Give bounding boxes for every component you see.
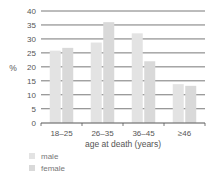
bar-female-1	[103, 22, 114, 123]
y-tick-label: 5	[32, 105, 37, 114]
y-tick-label: 0	[32, 119, 37, 128]
y-axis-ticks: 0510152025303540	[27, 7, 36, 128]
bars	[50, 22, 197, 123]
y-axis-label: %	[9, 63, 17, 73]
legend-item-male: male	[29, 150, 65, 162]
legend: male female	[29, 150, 65, 174]
bar-male-3	[173, 84, 184, 123]
x-tick-label: 18–25	[50, 129, 73, 138]
x-tick-label: ≥46	[178, 129, 192, 138]
bar-male-1	[91, 43, 102, 123]
bar-female-3	[185, 86, 196, 123]
x-axis-label: age at death (years)	[85, 139, 161, 149]
y-tick-label: 35	[27, 21, 36, 30]
x-axis-ticks: 18–2526–3536–45≥46	[41, 123, 205, 138]
legend-item-female: female	[29, 162, 65, 174]
x-tick-label: 36–45	[132, 129, 155, 138]
y-tick-label: 20	[27, 63, 36, 72]
legend-swatch-male	[29, 153, 35, 159]
y-tick-label: 30	[27, 35, 36, 44]
legend-label-male: male	[41, 152, 58, 161]
x-tick-label: 26–35	[91, 129, 114, 138]
y-tick-label: 25	[27, 49, 36, 58]
legend-swatch-female	[29, 165, 35, 171]
y-tick-label: 10	[27, 91, 36, 100]
bar-male-0	[50, 51, 61, 123]
legend-label-female: female	[41, 164, 65, 173]
bar-female-0	[62, 48, 73, 123]
y-tick-label: 15	[27, 77, 36, 86]
bar-male-2	[132, 33, 143, 122]
bar-female-2	[144, 61, 155, 122]
y-tick-label: 40	[27, 7, 36, 16]
